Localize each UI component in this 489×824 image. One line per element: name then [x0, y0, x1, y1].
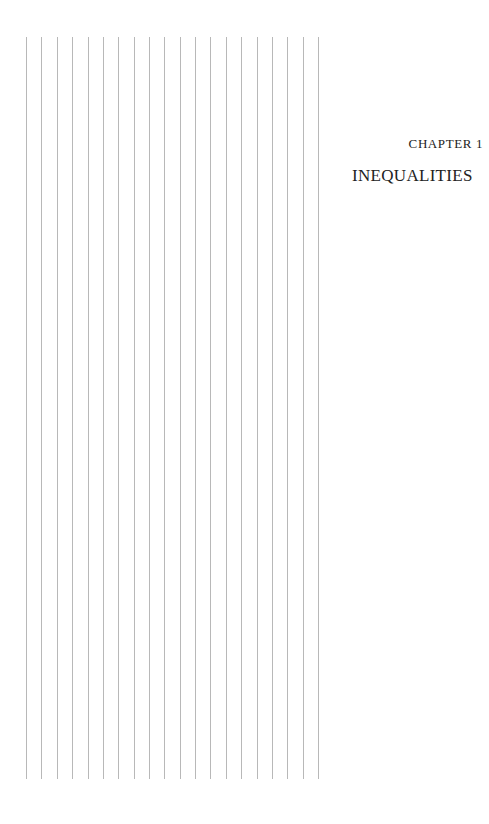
vertical-rule-line: [134, 37, 135, 779]
vertical-rule-line: [257, 37, 258, 779]
vertical-rule-line: [149, 37, 150, 779]
vertical-rule-line: [41, 37, 42, 779]
vertical-rule-line: [57, 37, 58, 779]
vertical-rule-line: [210, 37, 211, 779]
vertical-rule-line: [88, 37, 89, 779]
vertical-rule-line: [241, 37, 242, 779]
vertical-rule-line: [272, 37, 273, 779]
ruled-margin: [0, 37, 340, 779]
vertical-rule-line: [118, 37, 119, 779]
vertical-rule-line: [195, 37, 196, 779]
vertical-rule-line: [318, 37, 319, 779]
vertical-rule-line: [103, 37, 104, 779]
vertical-rule-line: [287, 37, 288, 779]
vertical-rule-line: [72, 37, 73, 779]
chapter-number: CHAPTER 1: [409, 136, 483, 152]
vertical-rule-line: [26, 37, 27, 779]
chapter-title: INEQUALITIES: [352, 166, 473, 186]
vertical-rule-line: [180, 37, 181, 779]
vertical-rule-line: [226, 37, 227, 779]
vertical-rule-line: [303, 37, 304, 779]
vertical-rule-line: [164, 37, 165, 779]
